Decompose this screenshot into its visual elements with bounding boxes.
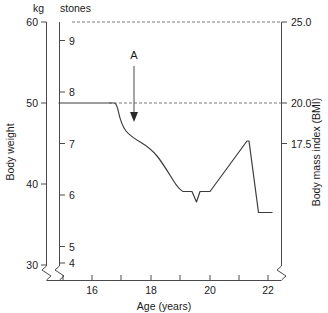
bmi-ticklabel-25: 25.0 <box>291 16 312 28</box>
bmi-ticklabel-20: 20.0 <box>291 97 312 109</box>
stones-ticklabel-4: 4 <box>69 257 75 269</box>
age-tick-labels: 16 18 20 22 <box>86 284 274 296</box>
annotation-a-group: A <box>130 49 138 122</box>
right-axis-break-mark <box>277 266 286 280</box>
reference-lines <box>72 22 281 103</box>
stones-ticklabel-8: 8 <box>69 86 75 98</box>
kg-tick-labels: 60 50 40 30 <box>26 16 38 271</box>
y-axis-title: Body weight <box>4 123 16 180</box>
age-ticklabel-18: 18 <box>145 284 157 296</box>
bottom-axis-age <box>47 275 282 281</box>
kg-ticklabel-30: 30 <box>26 259 38 271</box>
age-ticklabel-20: 20 <box>204 284 216 296</box>
stones-ticklabel-6: 6 <box>69 189 75 201</box>
kg-ticklabel-40: 40 <box>26 178 38 190</box>
stones-ticklabel-7: 7 <box>69 138 75 150</box>
annotation-a-arrowhead-icon <box>130 112 138 122</box>
right-axis-bmi <box>277 22 287 280</box>
bmi-tick-labels: 25.0 20.0 17.5 <box>291 16 312 150</box>
kg-ticklabel-60: 60 <box>26 16 38 28</box>
stones-ticklabel-5: 5 <box>69 241 75 253</box>
y2-axis-title: Body mass index (BMI) <box>310 98 322 207</box>
left-axis-kg <box>41 22 51 280</box>
age-ticklabel-16: 16 <box>86 284 98 296</box>
stones-ticklabel-9: 9 <box>69 35 75 47</box>
age-ticklabel-22: 22 <box>262 284 274 296</box>
bmi-ticklabel-17-5: 17.5 <box>291 138 312 150</box>
unit-label-kg: kg <box>33 2 44 14</box>
unit-label-stones: stones <box>60 2 91 14</box>
x-axis-title: Age (years) <box>137 300 191 312</box>
body-weight-series-line <box>59 103 272 213</box>
weight-bmi-line-chart: 60 50 40 30 9 8 7 6 5 4 kg stones <box>0 0 328 313</box>
stones-axis <box>55 22 65 280</box>
stones-tick-labels: 9 8 7 6 5 4 <box>69 35 75 270</box>
left-axis-break-mark <box>42 266 51 280</box>
annotation-a-label: A <box>130 49 138 61</box>
chart-figure: 60 50 40 30 9 8 7 6 5 4 kg stones <box>0 0 328 313</box>
kg-ticklabel-50: 50 <box>26 97 38 109</box>
